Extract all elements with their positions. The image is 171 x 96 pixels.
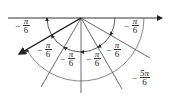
label-inner-2: − π 6 bbox=[67, 50, 75, 67]
label-left: − π 6 bbox=[22, 17, 30, 34]
label-inner-1: − π 6 bbox=[44, 41, 52, 58]
inner-arc-1 bbox=[110, 18, 115, 35]
label-inner-4: − π 6 bbox=[113, 41, 121, 58]
label-right: − π 6 bbox=[131, 17, 139, 34]
inner-arc-5 bbox=[52, 35, 64, 47]
inner-arc-6 bbox=[47, 18, 52, 35]
label-inner-3: − π 6 bbox=[93, 50, 101, 67]
label-total: − 5π 6 bbox=[139, 69, 150, 86]
